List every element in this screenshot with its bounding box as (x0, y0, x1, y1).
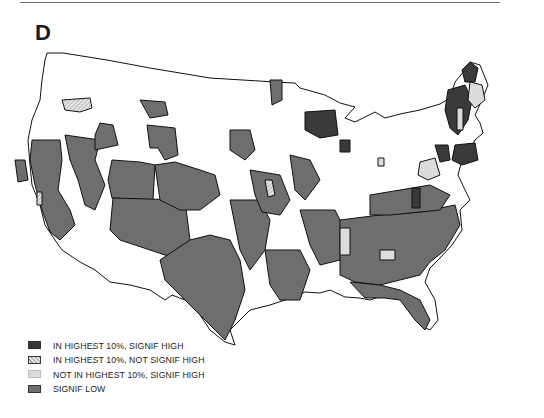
swatch-dark-icon (28, 341, 41, 349)
swatch-light-icon (28, 370, 41, 378)
legend-item-signif-low: SIGNIF LOW (28, 382, 218, 396)
legend-label: NOT IN HIGHEST 10%, SIGNIF HIGH (53, 369, 205, 380)
legend-item-highest-not-signif-high: IN HIGHEST 10%, NOT SIGNIF HIGH (28, 353, 218, 367)
legend-label: IN HIGHEST 10%, SIGNIF HIGH (53, 340, 184, 351)
legend-label: IN HIGHEST 10%, NOT SIGNIF HIGH (53, 354, 205, 365)
legend-item-not-highest-signif-high: NOT IN HIGHEST 10%, SIGNIF HIGH (28, 367, 218, 381)
legend: IN HIGHEST 10%, SIGNIF HIGH IN HIGHEST 1… (28, 338, 218, 396)
legend-label: SIGNIF LOW (53, 383, 105, 394)
swatch-hatched-icon (28, 356, 41, 364)
swatch-medium-icon (28, 385, 41, 393)
legend-item-highest-signif-high: IN HIGHEST 10%, SIGNIF HIGH (28, 338, 218, 352)
